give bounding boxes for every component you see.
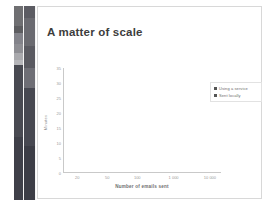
thumbnail-strip-right[interactable] bbox=[24, 6, 35, 200]
x-axis-tick-label: 50 bbox=[105, 175, 109, 180]
thumbnail-segment[interactable] bbox=[24, 68, 35, 88]
presentation-screenshot: A matter of scale Minutes 35302520151050… bbox=[0, 0, 270, 208]
x-axis-tick-label: 1 000 bbox=[169, 175, 179, 180]
slide-canvas[interactable]: A matter of scale Minutes 35302520151050… bbox=[37, 6, 262, 199]
thumbnail-strip-left[interactable] bbox=[14, 6, 23, 200]
thumbnail-segment[interactable] bbox=[14, 137, 23, 200]
page-title: A matter of scale bbox=[47, 26, 143, 38]
thumbnail-segment[interactable] bbox=[14, 26, 23, 33]
legend-item-label: Using a service bbox=[219, 86, 248, 91]
legend-item[interactable]: Sent locally bbox=[214, 93, 259, 98]
thumbnail-segment[interactable] bbox=[14, 53, 23, 61]
legend-item[interactable]: Using a service bbox=[214, 86, 259, 91]
thumbnail-segment[interactable] bbox=[24, 88, 35, 146]
plot-area bbox=[63, 68, 221, 173]
thumbnail-segment[interactable] bbox=[14, 44, 23, 53]
thumbnail-segment[interactable] bbox=[24, 146, 35, 200]
chart-legend[interactable]: Using a serviceSent locally bbox=[210, 82, 262, 102]
thumbnail-segment[interactable] bbox=[14, 33, 23, 44]
y-axis-tick-label: 10 bbox=[45, 141, 61, 146]
x-axis-tick-label: 100 bbox=[134, 175, 141, 180]
y-axis-ticks: 35302520151050 bbox=[45, 68, 61, 173]
legend-swatch-icon bbox=[214, 87, 217, 90]
thumbnail-segment[interactable] bbox=[14, 6, 23, 26]
chart-container: Minutes 35302520151050 20501001 00010 00… bbox=[38, 62, 263, 198]
y-axis-tick-label: 0 bbox=[45, 171, 61, 176]
y-axis-tick-label: 5 bbox=[45, 156, 61, 161]
thumbnail-segment[interactable] bbox=[24, 6, 35, 18]
x-axis-tick-label: 10 000 bbox=[204, 175, 216, 180]
thumbnail-segment[interactable] bbox=[24, 18, 35, 46]
x-axis-ticks: 20501001 00010 000 bbox=[63, 175, 221, 183]
thumbnail-segment[interactable] bbox=[24, 46, 35, 68]
slide-thumbnail-sidebar[interactable] bbox=[14, 6, 36, 200]
y-axis-tick-label: 15 bbox=[45, 126, 61, 131]
y-axis-tick-label: 35 bbox=[45, 66, 61, 71]
y-axis-tick-label: 20 bbox=[45, 111, 61, 116]
legend-swatch-icon bbox=[214, 94, 217, 97]
y-axis-tick-label: 25 bbox=[45, 96, 61, 101]
x-axis-tick-label: 20 bbox=[75, 175, 79, 180]
legend-item-label: Sent locally bbox=[219, 93, 241, 98]
y-axis-tick-label: 30 bbox=[45, 81, 61, 86]
thumbnail-segment[interactable] bbox=[14, 65, 23, 137]
x-axis-label: Number of emails sent bbox=[63, 184, 221, 189]
